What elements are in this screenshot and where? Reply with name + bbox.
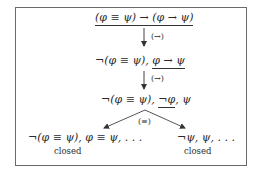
edge-n2-right	[145, 110, 185, 128]
node-2-part-a: ¬(φ ≡ ψ),	[101, 93, 158, 106]
node-1-part-b: φ → ψ	[152, 54, 185, 69]
root-node: (φ ≡ ψ) → (φ → ψ)	[95, 12, 193, 24]
rule-label-2: (→)	[151, 74, 164, 83]
branch-rule-label: (≡)	[138, 117, 151, 126]
left-leaf: ¬(φ ≡ ψ), φ ≡ ψ, . . .	[28, 132, 142, 144]
root-formula: (φ ≡ ψ) → (φ → ψ)	[95, 11, 193, 26]
right-leaf: ¬ψ, ψ, . . .	[177, 132, 235, 144]
right-leaf-status: closed	[184, 146, 211, 156]
tableau-edges	[0, 0, 260, 175]
node-2-part-b: ¬φ	[158, 93, 175, 108]
node-1-part-a: ¬(φ ≡ ψ),	[95, 54, 152, 67]
node-2: ¬(φ ≡ ψ), ¬φ, ψ	[101, 94, 191, 106]
node-2-part-c: , ψ	[175, 93, 191, 106]
left-leaf-status: closed	[54, 146, 81, 156]
rule-label-1: (→)	[151, 32, 164, 41]
node-1: ¬(φ ≡ ψ), φ → ψ	[95, 55, 185, 67]
